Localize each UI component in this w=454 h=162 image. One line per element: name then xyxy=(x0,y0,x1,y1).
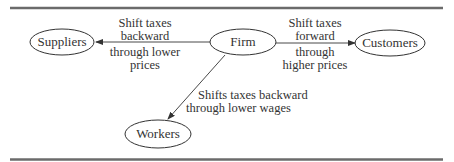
suppliers-edge-label-bottom: through lower prices xyxy=(105,46,185,72)
edge-label-line: through lower wages xyxy=(186,102,308,115)
edge-label-line: backward xyxy=(105,30,185,43)
customers-edge-label-top: Shift taxes forward xyxy=(272,17,358,43)
customers-label: Customers xyxy=(355,36,425,50)
edge-label-line: prices xyxy=(105,59,185,72)
diagram-canvas xyxy=(0,0,454,162)
workers-edge-label: Shifts taxes backward through lower wage… xyxy=(186,89,308,115)
customers-edge-label-bottom: through higher prices xyxy=(272,46,358,72)
edge-label-line: forward xyxy=(272,30,358,43)
firm-label: Firm xyxy=(210,35,276,49)
suppliers-edge-label-top: Shift taxes backward xyxy=(105,17,185,43)
suppliers-label: Suppliers xyxy=(30,35,94,49)
workers-label: Workers xyxy=(125,127,191,141)
edge-label-line: higher prices xyxy=(272,59,358,72)
